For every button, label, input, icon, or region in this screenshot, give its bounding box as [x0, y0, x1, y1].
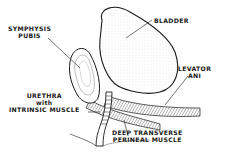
- label-bladder: BLADDER: [154, 17, 189, 24]
- anatomy-diagram: SYMPHYSIS PUBIS BLADDER LEVATOR ANI URET…: [0, 0, 228, 153]
- label-deep-transverse-perineal: DEEP TRANSVERSE PERINEAL MUSCLE: [112, 129, 183, 143]
- label-symphysis-pubis: SYMPHYSIS PUBIS: [8, 25, 51, 39]
- label-levator-ani: LEVATOR ANI: [178, 65, 211, 79]
- label-urethra: URETHRA with INTRINSIC MUSCLE: [9, 92, 80, 113]
